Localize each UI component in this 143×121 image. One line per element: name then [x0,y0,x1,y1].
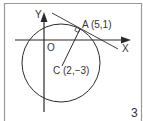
diagram-canvas: Y O X A (5,1) C (2,−3) 3 [0,0,143,121]
point-a-label: A (5,1) [82,19,111,30]
point-c-label: C (2,−3) [53,65,89,76]
geometry-figure: Y O X A (5,1) C (2,−3) 3 [0,0,143,121]
x-axis-label: X [122,43,129,54]
circle [22,24,100,102]
radius-segment-ca [62,29,80,66]
figure-number: 3 [131,106,138,120]
origin-label: O [47,42,55,53]
y-axis-label: Y [35,9,42,20]
